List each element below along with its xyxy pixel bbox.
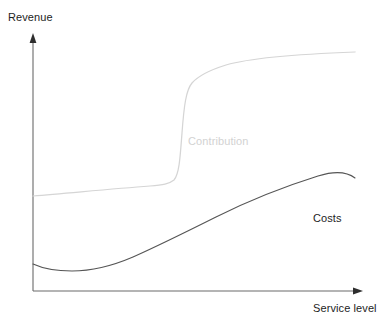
x-axis-arrowhead-icon (353, 288, 363, 295)
costs-curve (33, 172, 355, 271)
y-axis-arrowhead-icon (30, 33, 37, 43)
chart-plot-area (0, 0, 388, 329)
revenue-service-level-chart: Revenue Service level Costs Contribution (0, 0, 388, 329)
y-axis-label: Revenue (8, 11, 53, 24)
x-axis-label: Service level (313, 302, 377, 315)
contribution-series-label: Contribution (188, 135, 249, 148)
contribution-curve (33, 52, 355, 196)
costs-series-label: Costs (313, 212, 342, 225)
